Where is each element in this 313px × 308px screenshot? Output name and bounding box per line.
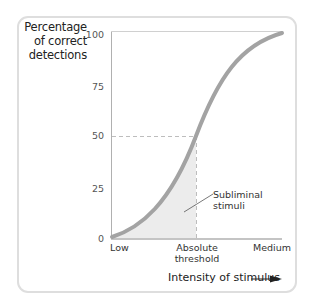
- x-tick-threshold: Absolute threshold: [174, 242, 220, 264]
- x-axis-title: Intensity of stimulus: [168, 271, 280, 284]
- x-tick-line: threshold: [174, 253, 220, 264]
- subliminal-shade: [112, 136, 196, 238]
- plot-area: [0, 0, 313, 308]
- subliminal-annotation: Subliminal stimuli: [213, 189, 263, 211]
- x-tick-line: Absolute: [174, 242, 220, 253]
- annotation-line: stimuli: [213, 200, 263, 211]
- x-tick-low: Low: [110, 242, 129, 253]
- x-tick-medium: Medium: [253, 242, 291, 253]
- annotation-line: Subliminal: [213, 189, 263, 200]
